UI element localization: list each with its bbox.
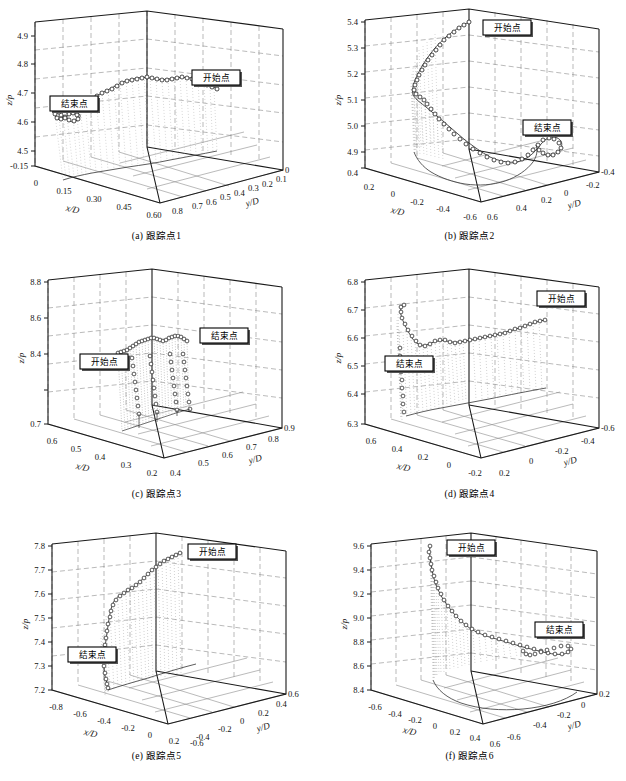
xtick-a-1: 0.15: [56, 186, 71, 196]
zaxis-ticks-f: [367, 546, 371, 690]
callout-start-d: 开始点: [537, 291, 587, 308]
ytick-b-3: 0.2: [541, 195, 552, 205]
ytick-e-4: -0.2: [218, 724, 232, 734]
ytick-c-3: 0.7: [246, 442, 257, 452]
ztick-a-0: 4.9: [17, 31, 28, 41]
caption-a-text: (a) 跟踪点1: [132, 228, 181, 242]
xaxis-label-c: x/D: [74, 460, 91, 473]
ztick-f-3: 9.0: [353, 613, 364, 623]
plot-c-svg: 8.8 8.6 8.4 0.7 z/p 0.6 0.5 0.4 0.3 0.2 …: [0, 258, 313, 486]
plot-d: 6.8 6.7 6.6 6.5 6.4 6.3 z/p 0.6 0.4 0.2 …: [313, 258, 626, 486]
ytick-f-3: -0.4: [533, 720, 547, 730]
callout-start-a: 开始点: [192, 70, 242, 87]
ytick-f-0: 0.2: [599, 689, 610, 699]
xtick-c-1: 0.6: [47, 436, 58, 446]
plot-e-svg: 7.8 7.7 7.6 7.5 7.4 7.3 7.2 z/p -0.8 -0.…: [0, 520, 313, 748]
yaxis-label-f: y/D: [565, 718, 582, 732]
droplines-b: [411, 34, 443, 161]
ytick-d-2: -0.2: [555, 446, 569, 456]
ytick-f-1: 0: [581, 700, 585, 710]
ztick-d-2: 6.6: [347, 333, 358, 343]
ztick-f-0: 9.6: [353, 541, 364, 551]
callout-end-c: 结束点: [200, 328, 250, 345]
plot-a: 4.9 4.8 4.7 4.6 4.5 -0.15 z/p 0 0.15 0.3…: [0, 0, 313, 228]
plot-a-svg: 4.9 4.8 4.7 4.6 4.5 -0.15 z/p 0 0.15 0.3…: [0, 0, 313, 228]
xtick-b-5: -0.6: [463, 212, 477, 222]
zaxis-ticks-b: [361, 22, 365, 168]
plot-b-svg: 5.4 5.3 5.2 5.1 5.0 4.9 0.4 z/p 0.2 0 -0…: [313, 0, 626, 228]
ytick-d-3: -0.4: [581, 436, 595, 446]
ztick-f-1: 9.4: [353, 565, 364, 575]
ztick-e-6: 7.2: [34, 685, 45, 695]
ztick-e-1: 7.7: [34, 565, 45, 575]
caption-f-text: (f) 跟踪点6: [445, 748, 493, 762]
xtick-d-1: 0.4: [392, 444, 403, 454]
callout-start-e: 开始点: [188, 544, 238, 561]
caption-e: (e) 跟踪点5: [0, 748, 313, 762]
grid-floor-a: [35, 132, 283, 203]
xtick-e-1: -0.6: [73, 709, 87, 719]
caption-e-text: (e) 跟踪点5: [132, 748, 181, 762]
ytick-a-5: 0.5: [220, 192, 231, 202]
xtick-b-4: -0.4: [436, 204, 450, 214]
ytick-d-0: 0.2: [499, 468, 510, 478]
zaxis-label-c: z/p: [16, 352, 26, 364]
callout-start-b-text: 开始点: [494, 22, 521, 33]
ytick-b-4: 0.4: [516, 203, 527, 213]
panel-d: 6.8 6.7 6.6 6.5 6.4 6.3 z/p 0.6 0.4 0.2 …: [313, 258, 626, 486]
yaxis-label-c: y/D: [246, 452, 263, 466]
droplines-f: [430, 548, 517, 680]
ztick-e-4: 7.4: [34, 637, 45, 647]
ytick-a-8: 0.8: [172, 206, 183, 216]
ztick-a-4: 4.5: [17, 146, 28, 156]
ztick-f-6: 8.4: [353, 685, 364, 695]
xtick-a-2: 0.30: [86, 194, 101, 204]
axes-frame-b: [365, 9, 599, 202]
xtick-c-3: 0.4: [95, 452, 106, 462]
callout-start-e-text: 开始点: [199, 546, 226, 557]
caption-a: (a) 跟踪点1: [0, 228, 313, 242]
callout-end-e: 结束点: [68, 647, 118, 664]
xtick-a-3: 0.45: [116, 202, 131, 212]
xtick-d-3: 0: [447, 460, 451, 470]
caption-b-text: (b) 跟踪点2: [445, 228, 495, 242]
ztick-b-6: 0.4: [347, 168, 358, 178]
ytick-b-2: 0: [564, 188, 568, 198]
caption-d-text: (d) 跟踪点4: [445, 486, 495, 500]
yaxis-label-a: y/D: [243, 195, 260, 209]
ytick-a-6: 0.6: [206, 197, 217, 207]
ytick-a-7: 0.7: [192, 201, 203, 211]
grid-left-wall-d: [365, 272, 469, 424]
xtick-e-0: -0.8: [49, 702, 63, 712]
ztick-f-4: 8.8: [353, 637, 364, 647]
callout-start-c: 开始点: [80, 354, 130, 371]
ztick-e-2: 7.6: [34, 589, 45, 599]
ztick-f-5: 8.6: [353, 661, 364, 671]
xtick-f-5: 0.4: [470, 733, 481, 743]
xtick-d-2: 0.2: [418, 452, 429, 462]
ytick-d-4: -0.6: [601, 423, 615, 433]
droplines-a: [55, 77, 217, 180]
ztick-f-2: 9.2: [353, 589, 364, 599]
ztick-d-4: 6.4: [347, 389, 358, 399]
ytick-c-4: 0.8: [268, 434, 279, 444]
xtick-b-1: 0.2: [364, 182, 375, 192]
trajectory-e: [102, 551, 182, 690]
floor-projection-d: [406, 388, 546, 416]
xtick-c-5: 0.2: [147, 468, 158, 478]
xtick-b-3: -0.2: [410, 197, 424, 207]
droplines-e: [101, 555, 181, 696]
panel-e: 7.8 7.7 7.6 7.5 7.4 7.3 7.2 z/p -0.8 -0.…: [0, 520, 313, 748]
callout-start-a-text: 开始点: [203, 72, 230, 83]
grid-left-wall-b: [365, 12, 469, 168]
ztick-a-1: 4.8: [17, 59, 28, 69]
ztick-d-1: 6.7: [347, 305, 358, 315]
xtick-e-2: -0.4: [97, 716, 111, 726]
ytick-f-2: -0.2: [557, 710, 571, 720]
ztick-b-3: 5.1: [347, 95, 358, 105]
caption-b: (b) 跟踪点2: [313, 228, 626, 242]
ztick-a-5: -0.15: [10, 161, 28, 171]
xaxis-label-e: x/D: [82, 726, 99, 739]
xtick-c-4: 0.3: [121, 460, 132, 470]
xaxis-label-d: x/D: [395, 460, 412, 473]
